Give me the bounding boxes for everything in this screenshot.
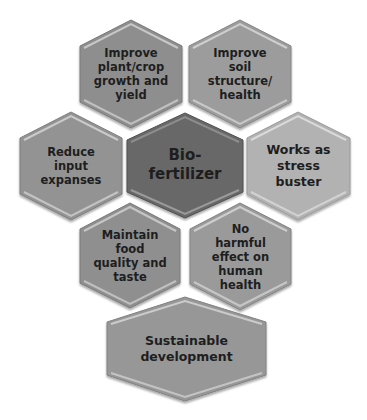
hex-maintain-food-quality (80, 203, 180, 308)
hex-reduce-input-expenses (20, 112, 122, 220)
hex-no-harmful-effect (190, 203, 291, 310)
hex-sustainable-development (107, 297, 266, 401)
hex-improve-soil-structure (189, 20, 291, 128)
hex-improve-plant-growth (80, 20, 182, 128)
biofertilizer-benefits-diagram (0, 0, 367, 420)
hex-stress-buster (247, 112, 350, 220)
hex-biofertilizer-center (127, 113, 243, 218)
